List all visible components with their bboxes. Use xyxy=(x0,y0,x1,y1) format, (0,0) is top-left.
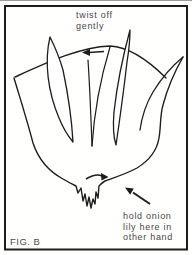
center-leaf-left-edge xyxy=(88,60,92,146)
figure-caption: FIG. B xyxy=(10,237,40,248)
bulb-and-outer-leaves-outline xyxy=(14,57,183,208)
center-leaf-right-edge xyxy=(92,47,110,146)
bulb-dome-line xyxy=(15,46,166,78)
inner-left-leaf xyxy=(47,37,73,142)
figure-b-panel: twist off gently hold onion lily here in… xyxy=(0,0,192,255)
hold-instruction-label: hold onion lily here in other hand xyxy=(123,211,173,243)
hold-location-arrow-icon xyxy=(125,188,150,205)
twist-instruction-label: twist off gently xyxy=(76,10,113,31)
base-rotation-arrow-right-icon xyxy=(86,173,109,181)
